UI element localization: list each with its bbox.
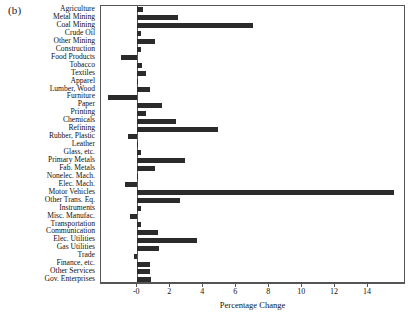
bar bbox=[130, 214, 137, 219]
bar bbox=[137, 158, 185, 163]
bar bbox=[137, 246, 158, 251]
bar bbox=[137, 47, 140, 52]
x-tick-label: -0 bbox=[133, 288, 140, 296]
bar bbox=[137, 111, 145, 116]
bar bbox=[137, 262, 149, 267]
bar bbox=[137, 150, 140, 155]
bar bbox=[137, 166, 155, 171]
bar bbox=[137, 7, 143, 12]
x-tick-label: 4 bbox=[200, 288, 204, 296]
x-tick-label: 8 bbox=[266, 288, 270, 296]
bar bbox=[137, 277, 151, 282]
x-tick-label: 10 bbox=[297, 288, 305, 296]
bar bbox=[137, 23, 253, 28]
bar bbox=[137, 269, 150, 274]
x-tick-label: 14 bbox=[363, 288, 371, 296]
bar bbox=[134, 254, 137, 259]
bar bbox=[137, 206, 141, 211]
bar bbox=[137, 15, 177, 20]
bar bbox=[137, 39, 155, 44]
bar bbox=[137, 238, 196, 243]
category-axis-labels: AgricultureMetal MiningCoal MiningCrude … bbox=[0, 5, 97, 283]
x-tick-label: 2 bbox=[167, 288, 171, 296]
bar bbox=[137, 71, 146, 76]
category-label: Apparel bbox=[71, 77, 95, 85]
bars-container bbox=[101, 6, 404, 282]
bar bbox=[137, 190, 394, 195]
x-tick-label: 12 bbox=[330, 288, 338, 296]
figure-panel-b: (b) AgricultureMetal MiningCoal MiningCr… bbox=[0, 0, 415, 319]
bar bbox=[108, 95, 138, 100]
bar bbox=[137, 230, 158, 235]
bar bbox=[121, 55, 137, 60]
bar bbox=[137, 222, 140, 227]
plot-area bbox=[100, 5, 405, 283]
bar bbox=[125, 182, 137, 187]
bar bbox=[137, 63, 142, 68]
bar bbox=[137, 87, 150, 92]
bar bbox=[137, 103, 162, 108]
bar bbox=[137, 119, 176, 124]
bar bbox=[137, 127, 218, 132]
bar bbox=[137, 31, 140, 36]
x-axis-title: Percentage Change bbox=[100, 300, 405, 310]
bar bbox=[137, 79, 138, 84]
bar bbox=[137, 142, 138, 147]
x-tick-label: 6 bbox=[233, 288, 237, 296]
x-axis: -02468101214 bbox=[100, 283, 405, 284]
bar bbox=[137, 174, 138, 179]
bar bbox=[137, 198, 180, 203]
bar bbox=[128, 134, 137, 139]
category-label: Gov. Enterprises bbox=[44, 275, 95, 283]
